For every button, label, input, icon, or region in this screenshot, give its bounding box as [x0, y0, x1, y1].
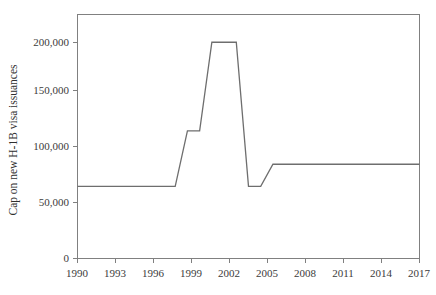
y-tick-label: 100,000: [33, 140, 69, 152]
x-tick-label: 1999: [180, 267, 203, 279]
x-tick-label: 2005: [256, 267, 279, 279]
y-axis-title: Cap on new H-1B visa issuances: [7, 64, 20, 216]
y-tick-label: 150,000: [33, 84, 69, 96]
y-tick-label: 200,000: [33, 36, 69, 48]
plot-frame: [78, 15, 420, 259]
x-tick-label: 1990: [66, 267, 89, 279]
x-tick-label: 2014: [370, 267, 393, 279]
data-series-line: [78, 42, 420, 186]
chart-container: 0 50,000 100,000 150,000 200,000 1990 19…: [0, 0, 436, 295]
x-tick-label: 2008: [294, 267, 317, 279]
x-tick-label: 2011: [332, 267, 354, 279]
y-tick-label: 0: [64, 252, 70, 264]
x-axis-tick-labels: 1990 1993 1996 1999 2002 2005 2008 2011 …: [66, 267, 431, 279]
y-axis-ticks: [73, 43, 78, 259]
x-tick-label: 2002: [218, 267, 240, 279]
x-tick-label: 1996: [142, 267, 165, 279]
line-chart: 0 50,000 100,000 150,000 200,000 1990 19…: [0, 0, 436, 295]
y-axis-tick-labels: 0 50,000 100,000 150,000 200,000: [33, 36, 69, 264]
y-tick-label: 50,000: [39, 196, 70, 208]
x-axis-ticks: [78, 259, 420, 264]
x-tick-label: 2017: [408, 267, 431, 279]
x-tick-label: 1993: [104, 267, 127, 279]
